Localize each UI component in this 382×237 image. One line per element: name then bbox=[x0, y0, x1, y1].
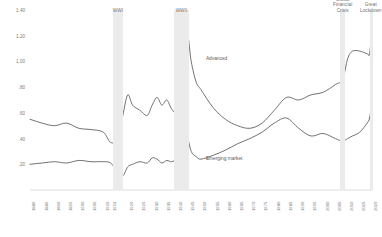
x-axis-tick: 2015 bbox=[361, 202, 366, 211]
y-axis-tick: 1.20 bbox=[16, 33, 25, 38]
y-axis-tick: .40 bbox=[19, 136, 25, 141]
x-axis-tick: 1900 bbox=[80, 202, 85, 211]
x-axis-tick: 1965 bbox=[239, 202, 244, 211]
x-axis-tick: 1905 bbox=[92, 202, 97, 211]
event-band-3 bbox=[370, 10, 374, 190]
x-axis-tick: 1980 bbox=[276, 202, 281, 211]
event-band-2 bbox=[340, 10, 345, 190]
event-band-0 bbox=[113, 10, 123, 190]
x-axis-tick: 1945 bbox=[190, 202, 195, 211]
y-axis-tick: .60 bbox=[19, 110, 25, 115]
x-axis-tick: 1925 bbox=[141, 202, 146, 211]
x-axis-tick: 1885 bbox=[44, 202, 49, 211]
x-axis-tick: 1890 bbox=[56, 202, 61, 211]
x-axis-tick: 1920 bbox=[129, 202, 134, 211]
series-line-1 bbox=[30, 103, 372, 176]
x-axis-tick: 1935 bbox=[166, 202, 171, 211]
x-axis-tick: 1990 bbox=[300, 202, 305, 211]
x-axis-tick: 1880 bbox=[31, 202, 36, 211]
x-axis-tick: 2010 bbox=[349, 202, 354, 211]
x-axis-tick: 1950 bbox=[202, 202, 207, 211]
event-band-1 bbox=[174, 10, 189, 190]
x-axis-tick: 1995 bbox=[312, 202, 317, 211]
series-annotation-1: Emerging market bbox=[206, 156, 243, 161]
y-axis-tick: 1.40 bbox=[16, 8, 25, 13]
x-axis-tick: 1975 bbox=[263, 202, 268, 211]
x-axis-tick: 1895 bbox=[68, 202, 73, 211]
x-axis-tick: 1970 bbox=[251, 202, 256, 211]
x-axis-tick: 1910 bbox=[105, 202, 110, 211]
x-axis-tick: 2005 bbox=[337, 202, 342, 211]
y-axis-tick: 1.00 bbox=[16, 59, 25, 64]
x-axis-tick: 1940 bbox=[178, 202, 183, 211]
event-band-label-1: WWII bbox=[159, 8, 203, 14]
x-axis-tick: 2020 bbox=[373, 202, 378, 211]
y-axis-tick: .80 bbox=[19, 85, 25, 90]
plot-area bbox=[30, 10, 372, 190]
y-axis-labels: 1.401.201.00.80.60.40.20 bbox=[0, 10, 28, 190]
x-axis-tick: 2000 bbox=[325, 202, 330, 211]
x-axis-tick: 1913 bbox=[112, 202, 117, 211]
series-line-0 bbox=[30, 29, 372, 143]
x-axis-tick: 1960 bbox=[227, 202, 232, 211]
y-axis-tick: .20 bbox=[19, 162, 25, 167]
debt-to-gdp-line-chart: 1.401.201.00.80.60.40.20 188018851890189… bbox=[0, 0, 382, 237]
event-band-label-0: WWI bbox=[96, 8, 140, 14]
x-axis-labels: 1880188518901895190019051910191319201925… bbox=[30, 192, 372, 237]
event-band-label-3: Great Lockdown bbox=[349, 2, 382, 13]
x-axis-tick: 1930 bbox=[154, 202, 159, 211]
x-axis-tick: 1985 bbox=[288, 202, 293, 211]
x-axis-tick: 1955 bbox=[215, 202, 220, 211]
series-lines bbox=[30, 10, 372, 190]
series-annotation-0: Advanced bbox=[206, 56, 227, 61]
